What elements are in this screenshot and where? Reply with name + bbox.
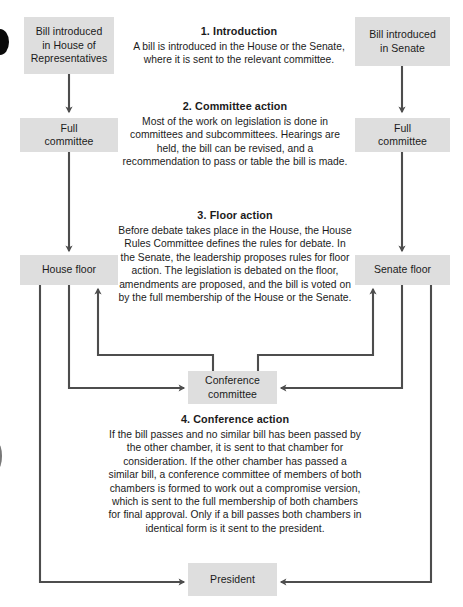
node-house-full-committee[interactable]: Full committee (20, 118, 118, 152)
step-4-conference-action: 4. Conference action If the bill passes … (108, 412, 362, 535)
step-body: Before debate takes place in the House, … (118, 224, 352, 304)
page-edge-marker-top (0, 29, 9, 55)
node-label: Bill introduced in Senate (366, 28, 439, 55)
page-edge-marker-bottom (0, 443, 2, 469)
node-label: Full committee (42, 122, 97, 149)
step-3-floor-action: 3. Floor action Before debate takes plac… (118, 208, 352, 304)
step-2-committee-action: 2. Committee action Most of the work on … (118, 99, 352, 169)
step-title: 4. Conference action (108, 412, 362, 427)
flowchart-diagram: Bill introduced in House of Representati… (0, 0, 463, 607)
node-bill-introduced-senate[interactable]: Bill introduced in Senate (355, 17, 450, 66)
node-house-floor[interactable]: House floor (20, 255, 118, 285)
step-body: If the bill passes and no similar bill h… (108, 428, 362, 535)
step-body: Most of the work on legislation is done … (118, 115, 352, 169)
step-1-introduction: 1. Introduction A bill is introduced in … (120, 24, 358, 67)
node-label: Bill introduced in House of Representati… (28, 25, 111, 66)
step-title: 1. Introduction (120, 24, 358, 39)
node-label: House floor (39, 263, 99, 277)
step-body: A bill is introduced in the House or the… (120, 40, 358, 67)
node-president[interactable]: President (188, 563, 277, 596)
node-label: President (207, 573, 258, 587)
node-senate-full-committee[interactable]: Full committee (355, 118, 450, 152)
step-title: 2. Committee action (118, 99, 352, 114)
node-senate-floor[interactable]: Senate floor (355, 255, 450, 285)
step-title: 3. Floor action (118, 208, 352, 223)
node-label: Full committee (375, 122, 430, 149)
node-label: Senate floor (371, 263, 434, 277)
node-bill-introduced-house[interactable]: Bill introduced in House of Representati… (24, 17, 114, 74)
node-label: Conference committee (202, 374, 263, 401)
node-conference-committee[interactable]: Conference committee (188, 371, 277, 404)
